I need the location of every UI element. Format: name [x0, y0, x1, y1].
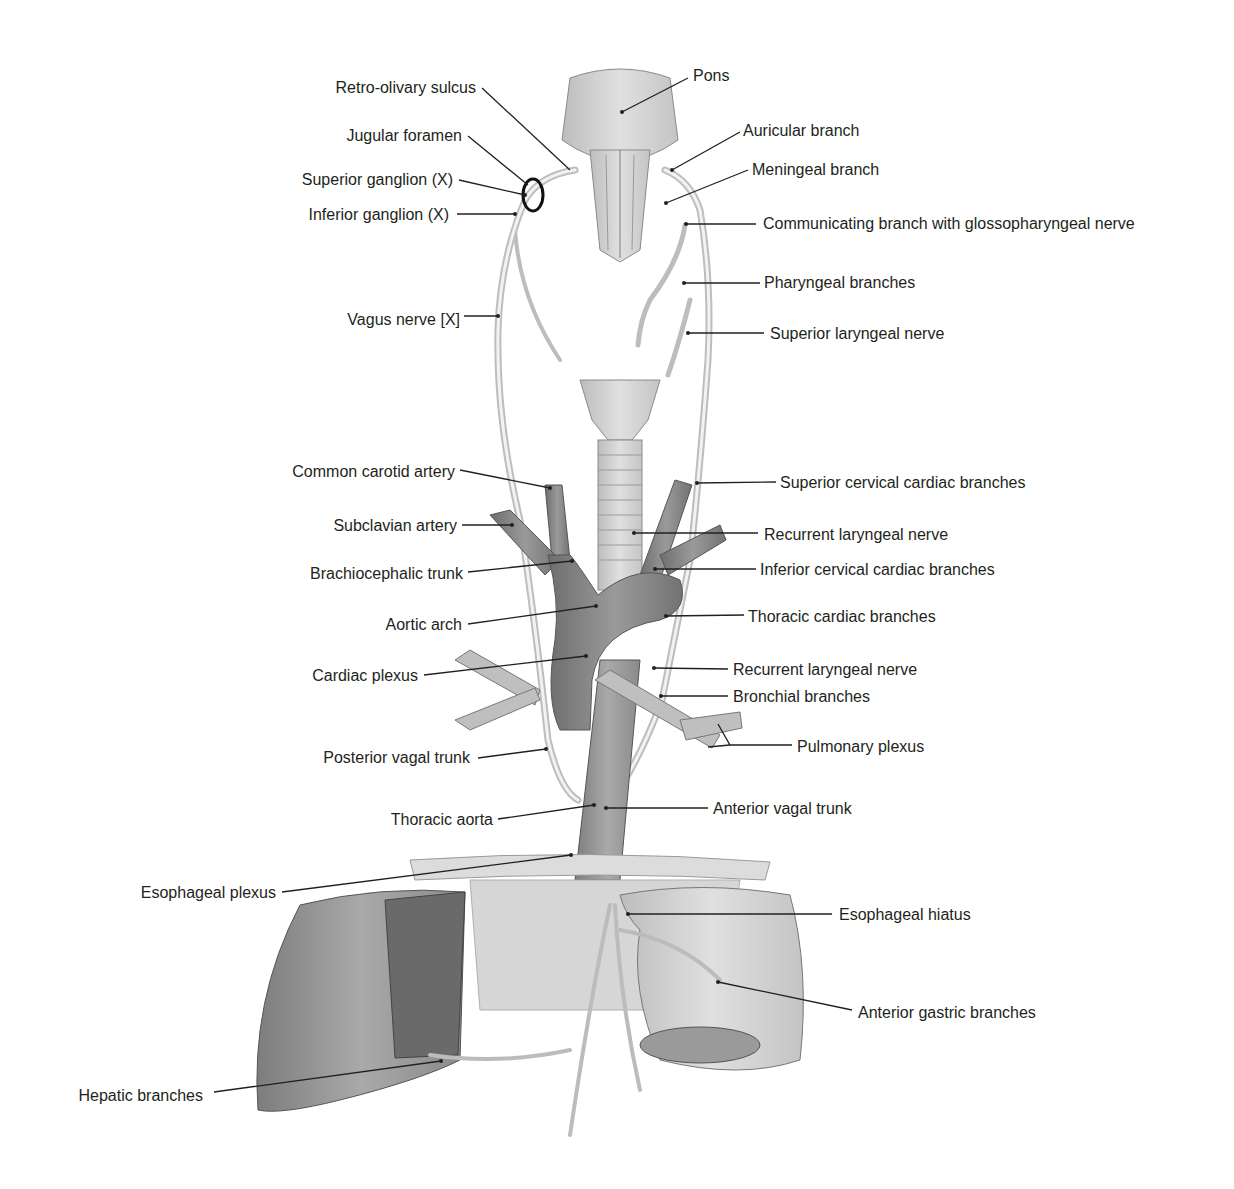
- label-meningeal-branch: Meningeal branch: [752, 161, 879, 179]
- label-posterior-vagal-trunk: Posterior vagal trunk: [323, 749, 470, 767]
- label-superior-laryngeal-nerve: Superior laryngeal nerve: [770, 325, 944, 343]
- label-aortic-arch: Aortic arch: [386, 616, 462, 634]
- label-esophageal-plexus: Esophageal plexus: [141, 884, 276, 902]
- label-jugular-foramen: Jugular foramen: [346, 127, 462, 145]
- label-pulmonary-plexus: Pulmonary plexus: [797, 738, 924, 756]
- label-pons: Pons: [693, 67, 729, 85]
- label-cardiac-plexus: Cardiac plexus: [312, 667, 418, 685]
- label-auricular-branch: Auricular branch: [743, 122, 860, 140]
- label-inferior-ganglion: Inferior ganglion (X): [308, 206, 449, 224]
- label-esophageal-hiatus: Esophageal hiatus: [839, 906, 971, 924]
- label-vagus-nerve: Vagus nerve [X]: [347, 311, 460, 329]
- label-retro-olivary-sulcus: Retro-olivary sulcus: [336, 79, 476, 97]
- label-pharyngeal-branches: Pharyngeal branches: [764, 274, 915, 292]
- label-anterior-gastric-branches: Anterior gastric branches: [858, 1004, 1036, 1022]
- label-thoracic-aorta: Thoracic aorta: [391, 811, 493, 829]
- label-superior-cervical-cardiac-branches: Superior cervical cardiac branches: [780, 474, 1025, 492]
- label-common-carotid-artery: Common carotid artery: [292, 463, 455, 481]
- illustration: [0, 0, 1234, 1189]
- label-thoracic-cardiac-branches: Thoracic cardiac branches: [748, 608, 936, 626]
- label-superior-ganglion: Superior ganglion (X): [302, 171, 453, 189]
- label-subclavian-artery: Subclavian artery: [333, 517, 457, 535]
- label-hepatic-branches: Hepatic branches: [78, 1087, 203, 1105]
- anatomical-figure: Retro-olivary sulcus Jugular foramen Sup…: [0, 0, 1234, 1189]
- brainstem: [562, 69, 678, 262]
- label-inferior-cervical-cardiac-branches: Inferior cervical cardiac branches: [760, 561, 995, 579]
- label-recurrent-laryngeal-nerve-upper: Recurrent laryngeal nerve: [764, 526, 948, 544]
- label-bronchial-branches: Bronchial branches: [733, 688, 870, 706]
- label-recurrent-laryngeal-nerve-lower: Recurrent laryngeal nerve: [733, 661, 917, 679]
- label-communicating-branch: Communicating branch with glossopharynge…: [763, 215, 1135, 233]
- label-anterior-vagal-trunk: Anterior vagal trunk: [713, 800, 852, 818]
- label-brachiocephalic-trunk: Brachiocephalic trunk: [310, 565, 463, 583]
